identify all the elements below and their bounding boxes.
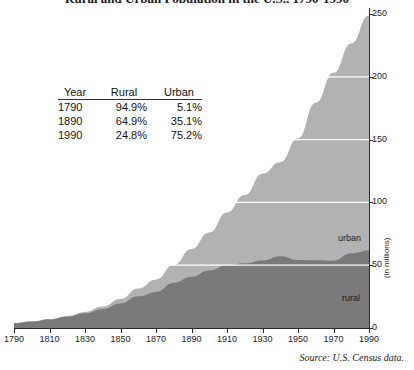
x-tick-mark xyxy=(369,329,370,333)
x-tick-label: 1870 xyxy=(146,334,166,344)
chart-figure: Rural and Urban Population in the U.S., … xyxy=(0,0,414,370)
x-tick-mark xyxy=(50,329,51,333)
y-tick-label: 100 xyxy=(372,197,387,206)
table-header-row: Year Rural Urban xyxy=(58,86,202,100)
x-tick-label: 1950 xyxy=(288,334,308,344)
table-row: 1990 24.8% 75.2% xyxy=(58,128,202,142)
y-tick-mark xyxy=(369,202,373,203)
x-tick-mark xyxy=(334,329,335,333)
cell-rural: 24.8% xyxy=(92,128,147,142)
y-tick-mark xyxy=(369,77,373,78)
column-header-rural: Rural xyxy=(92,86,147,100)
x-tick-mark xyxy=(227,329,228,333)
y-tick-label: 150 xyxy=(372,135,387,144)
data-table: Year Rural Urban 1790 94.9% 5.1% 1890 64… xyxy=(58,86,202,142)
x-tick-mark xyxy=(85,329,86,333)
y-tick-label: 50 xyxy=(372,260,382,269)
y-axis-label: (in millions) xyxy=(382,238,391,278)
x-tick-label: 1990 xyxy=(359,334,379,344)
x-tick-label: 1890 xyxy=(181,334,201,344)
x-tick-mark xyxy=(298,329,299,333)
y-tick-mark xyxy=(369,140,373,141)
cell-year: 1990 xyxy=(58,128,92,142)
x-tick-label: 1910 xyxy=(217,334,237,344)
x-tick-mark xyxy=(192,329,193,333)
source-note: Source: U.S. Census data. xyxy=(299,352,404,363)
chart-title: Rural and Urban Population in the U.S., … xyxy=(0,0,414,3)
plot-area xyxy=(14,8,369,328)
cell-rural: 94.9% xyxy=(92,100,147,115)
x-tick-mark xyxy=(121,329,122,333)
stacked-area-chart xyxy=(14,8,369,328)
series-label-rural: rural xyxy=(342,293,360,303)
x-tick-mark xyxy=(14,329,15,333)
cell-year: 1890 xyxy=(58,114,92,128)
x-tick-label: 1970 xyxy=(323,334,343,344)
cell-year: 1790 xyxy=(58,100,92,115)
x-tick-label: 1930 xyxy=(252,334,272,344)
x-tick-label: 1810 xyxy=(39,334,59,344)
y-tick-label: 250 xyxy=(372,9,387,18)
x-tick-mark xyxy=(156,329,157,333)
column-header-urban: Urban xyxy=(147,86,202,100)
cell-urban: 75.2% xyxy=(147,128,202,142)
column-header-year: Year xyxy=(58,86,92,100)
cell-rural: 64.9% xyxy=(92,114,147,128)
y-axis-line xyxy=(369,8,370,329)
x-tick-mark xyxy=(263,329,264,333)
y-tick-mark xyxy=(369,265,373,266)
table-row: 1890 64.9% 35.1% xyxy=(58,114,202,128)
x-tick-label: 1850 xyxy=(110,334,130,344)
series-label-urban: urban xyxy=(338,233,361,243)
x-tick-label: 1830 xyxy=(75,334,95,344)
x-tick-label: 1790 xyxy=(4,334,24,344)
table-row: 1790 94.9% 5.1% xyxy=(58,100,202,115)
cell-urban: 35.1% xyxy=(147,114,202,128)
y-tick-mark xyxy=(369,14,373,15)
y-tick-label: 200 xyxy=(372,72,387,81)
cell-urban: 5.1% xyxy=(147,100,202,115)
inset-data-table: Year Rural Urban 1790 94.9% 5.1% 1890 64… xyxy=(58,86,202,142)
